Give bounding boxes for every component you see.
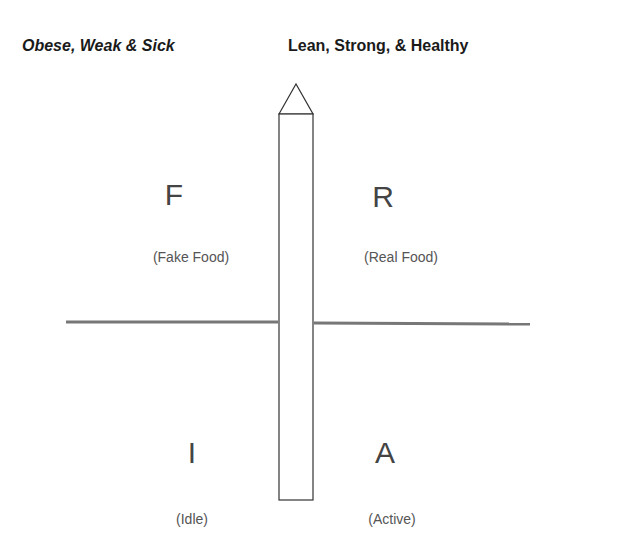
label-real-food: (Real Food) bbox=[331, 249, 471, 265]
letter-i: I bbox=[162, 438, 222, 468]
letter-r: R bbox=[353, 182, 413, 212]
arrow-tip-icon bbox=[279, 84, 313, 114]
letter-f: F bbox=[144, 180, 204, 210]
vertical-bar bbox=[279, 114, 313, 500]
label-active: (Active) bbox=[322, 511, 462, 527]
letter-a: A bbox=[355, 438, 415, 468]
horizontal-divider-right bbox=[314, 323, 530, 324]
diagram-shapes bbox=[0, 0, 618, 554]
label-idle: (Idle) bbox=[122, 511, 262, 527]
label-fake-food: (Fake Food) bbox=[121, 249, 261, 265]
